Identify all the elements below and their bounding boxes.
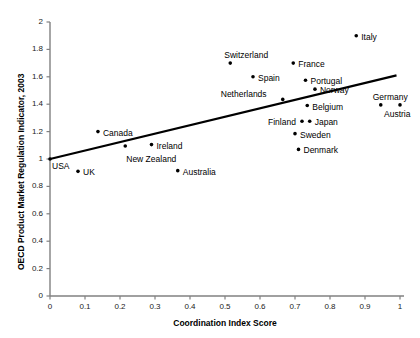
axes-group: [47, 22, 405, 300]
x-axis-title: Coordination Index Score: [173, 318, 276, 328]
x-axis-tick-label: 0.5: [219, 303, 230, 311]
data-point-label: France: [298, 60, 324, 69]
data-point-label: Ireland: [157, 142, 183, 151]
x-axis-tick-label: 0.6: [254, 303, 265, 311]
data-point-label: Canada: [103, 129, 133, 138]
data-point-label: Norway: [320, 86, 349, 95]
data-point-marker[interactable]: [228, 61, 232, 65]
x-axis-tick-label: 0.1: [79, 303, 90, 311]
data-point-label: New Zealand: [126, 155, 176, 164]
data-point-marker[interactable]: [304, 78, 308, 82]
data-point-marker[interactable]: [305, 104, 309, 108]
data-point-marker[interactable]: [297, 148, 301, 152]
data-point-marker[interactable]: [96, 130, 100, 134]
y-axis-tick-label: 2: [0, 18, 43, 26]
data-point-marker[interactable]: [354, 34, 358, 38]
data-point-label: Switzerland: [224, 51, 268, 60]
data-point-marker[interactable]: [251, 75, 255, 79]
x-axis-tick-label: 0.2: [114, 303, 125, 311]
data-point-marker[interactable]: [176, 169, 180, 173]
x-axis-tick-label: 0: [48, 303, 52, 311]
data-point-marker[interactable]: [398, 103, 402, 107]
data-point-marker[interactable]: [123, 144, 127, 148]
data-point-label: Sweden: [300, 131, 331, 140]
data-point-label: Finland: [268, 118, 296, 127]
data-point-marker[interactable]: [76, 170, 80, 174]
scatter-plot-figure: 00.20.40.60.811.21.41.61.8200.10.20.30.4…: [0, 0, 420, 338]
data-point-label: Japan: [315, 118, 338, 127]
x-axis-tick-label: 0.9: [359, 303, 370, 311]
y-axis-title: OECD Product Market Regulation Indicator…: [16, 74, 26, 271]
data-point-marker[interactable]: [293, 132, 297, 136]
data-point-label: Belgium: [312, 103, 343, 112]
data-point-label: Austria: [384, 110, 410, 119]
data-point-label: Netherlands: [221, 90, 267, 99]
x-axis-tick-label: 0.4: [184, 303, 195, 311]
data-point-label: Italy: [361, 33, 377, 42]
data-point-marker[interactable]: [300, 120, 304, 124]
x-axis-tick-label: 0.8: [324, 303, 335, 311]
y-axis-tick-label: 0: [0, 292, 43, 300]
data-point-marker[interactable]: [281, 98, 285, 102]
data-point-label: Spain: [258, 74, 280, 83]
data-point-marker[interactable]: [379, 103, 383, 107]
y-axis-tick-label: 1.8: [0, 45, 43, 53]
data-point-label: Denmark: [304, 146, 338, 155]
x-axis-tick-label: 1: [398, 303, 402, 311]
data-point-marker[interactable]: [291, 61, 295, 65]
data-point-label: Germany: [373, 93, 408, 102]
data-point-marker[interactable]: [308, 120, 312, 124]
data-point-marker[interactable]: [313, 87, 317, 91]
data-point-marker[interactable]: [150, 143, 154, 147]
data-point-label: Australia: [183, 168, 216, 177]
data-point-label: USA: [52, 162, 69, 171]
data-point-label: UK: [83, 168, 95, 177]
x-axis-tick-label: 0.3: [149, 303, 160, 311]
x-axis-tick-label: 0.7: [289, 303, 300, 311]
